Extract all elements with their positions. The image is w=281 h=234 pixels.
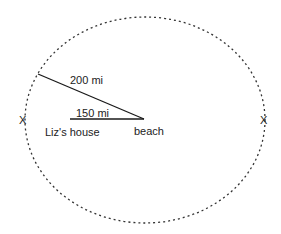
left-x-marker: X	[19, 114, 27, 126]
dotted-boundary-ellipse	[25, 17, 265, 223]
house-label: Liz's house	[45, 126, 100, 138]
radius-label: 200 mi	[70, 74, 103, 86]
right-x-marker: X	[260, 114, 268, 126]
house-distance-label: 150 mi	[76, 107, 109, 119]
diagram-canvas: 200 mi 150 mi Liz's house beach X X	[0, 0, 281, 234]
beach-label: beach	[134, 125, 164, 137]
